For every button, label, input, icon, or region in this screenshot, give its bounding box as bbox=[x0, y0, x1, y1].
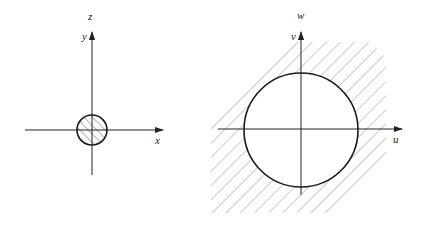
right-label-v: v bbox=[291, 30, 296, 42]
right-figure: w v u bbox=[211, 9, 402, 213]
left-label-x: x bbox=[154, 134, 160, 146]
left-label-z: z bbox=[87, 10, 93, 22]
diagram-canvas: z y x w v u bbox=[0, 0, 423, 225]
right-label-u: u bbox=[393, 133, 399, 145]
right-label-w: w bbox=[297, 9, 305, 21]
left-label-y: y bbox=[81, 30, 87, 42]
left-figure: z y x bbox=[25, 10, 163, 175]
